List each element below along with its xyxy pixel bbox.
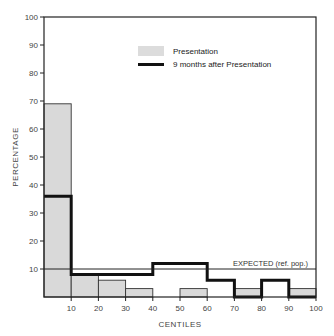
legend-label-nine-months: 9 months after Presentation	[173, 60, 271, 69]
expected-label: EXPECTED (ref. pop.)	[233, 259, 309, 268]
x-tick-label: 100	[309, 304, 323, 313]
x-tick-label: 40	[148, 304, 157, 313]
y-tick-label: 50	[29, 153, 38, 162]
presentation-bar	[180, 289, 207, 297]
y-tick-label: 40	[29, 181, 38, 190]
x-tick-label: 60	[203, 304, 212, 313]
x-tick-label: 30	[121, 304, 130, 313]
y-tick-label: 90	[29, 41, 38, 50]
y-tick-label: 30	[29, 209, 38, 218]
x-tick-label: 80	[257, 304, 266, 313]
x-tick-label: 10	[67, 304, 76, 313]
legend-swatch-presentation	[138, 46, 164, 56]
axes	[44, 17, 316, 297]
y-tick-label: 70	[29, 97, 38, 106]
presentation-bar	[126, 289, 153, 297]
y-axis-ticks: 102030405060708090100	[25, 13, 44, 274]
y-tick-label: 80	[29, 69, 38, 78]
y-tick-label: 60	[29, 125, 38, 134]
y-axis-title: PERCENTAGE	[11, 127, 20, 187]
x-tick-label: 50	[176, 304, 185, 313]
legend-label-presentation: Presentation	[173, 47, 218, 56]
y-tick-label: 20	[29, 237, 38, 246]
presentation-bar	[44, 104, 71, 297]
presentation-bar	[71, 275, 98, 297]
x-tick-label: 90	[284, 304, 293, 313]
x-axis-ticks: 102030405060708090100	[67, 297, 323, 313]
legend-swatch-nine-months	[138, 63, 164, 66]
presentation-bars	[44, 104, 316, 297]
x-tick-label: 70	[230, 304, 239, 313]
legend: Presentation 9 months after Presentation	[138, 46, 271, 69]
histogram-chart: EXPECTED (ref. pop.) 1020304050607080901…	[0, 0, 334, 336]
y-tick-label: 100	[25, 13, 39, 22]
x-axis-title: CENTILES	[158, 320, 201, 329]
x-tick-label: 20	[94, 304, 103, 313]
y-tick-label: 10	[29, 265, 38, 274]
presentation-bar	[98, 280, 125, 297]
